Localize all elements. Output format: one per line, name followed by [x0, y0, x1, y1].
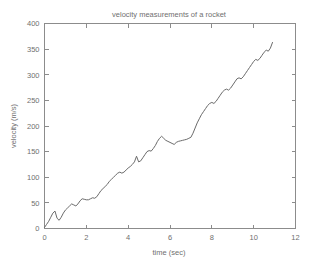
y-tick-label: 200 — [27, 122, 40, 131]
y-tick-label: 150 — [27, 147, 40, 156]
velocity-line-chart: velocity measurements of a rocket 050100… — [0, 0, 316, 269]
y-tick-label: 250 — [27, 96, 40, 105]
x-tick-label: 2 — [84, 233, 88, 242]
x-tick-label: 10 — [249, 233, 257, 242]
y-tick-label: 400 — [27, 19, 40, 28]
chart-figure: velocity measurements of a rocket 050100… — [0, 0, 316, 269]
y-tick-label: 350 — [27, 45, 40, 54]
chart-title: velocity measurements of a rocket — [112, 10, 227, 19]
x-axis-title: time (sec) — [153, 248, 186, 257]
x-tick-label: 4 — [126, 233, 130, 242]
y-tick-label: 300 — [27, 71, 40, 80]
y-tick-label: 0 — [35, 224, 39, 233]
y-tick-label: 50 — [31, 199, 39, 208]
x-tick-label: 0 — [42, 233, 46, 242]
x-tick-label: 8 — [210, 233, 214, 242]
y-tick-label: 100 — [27, 173, 40, 182]
x-tick-label: 6 — [168, 233, 172, 242]
y-axis-title: velocity (m/s) — [9, 103, 18, 148]
x-tick-label: 12 — [291, 233, 299, 242]
